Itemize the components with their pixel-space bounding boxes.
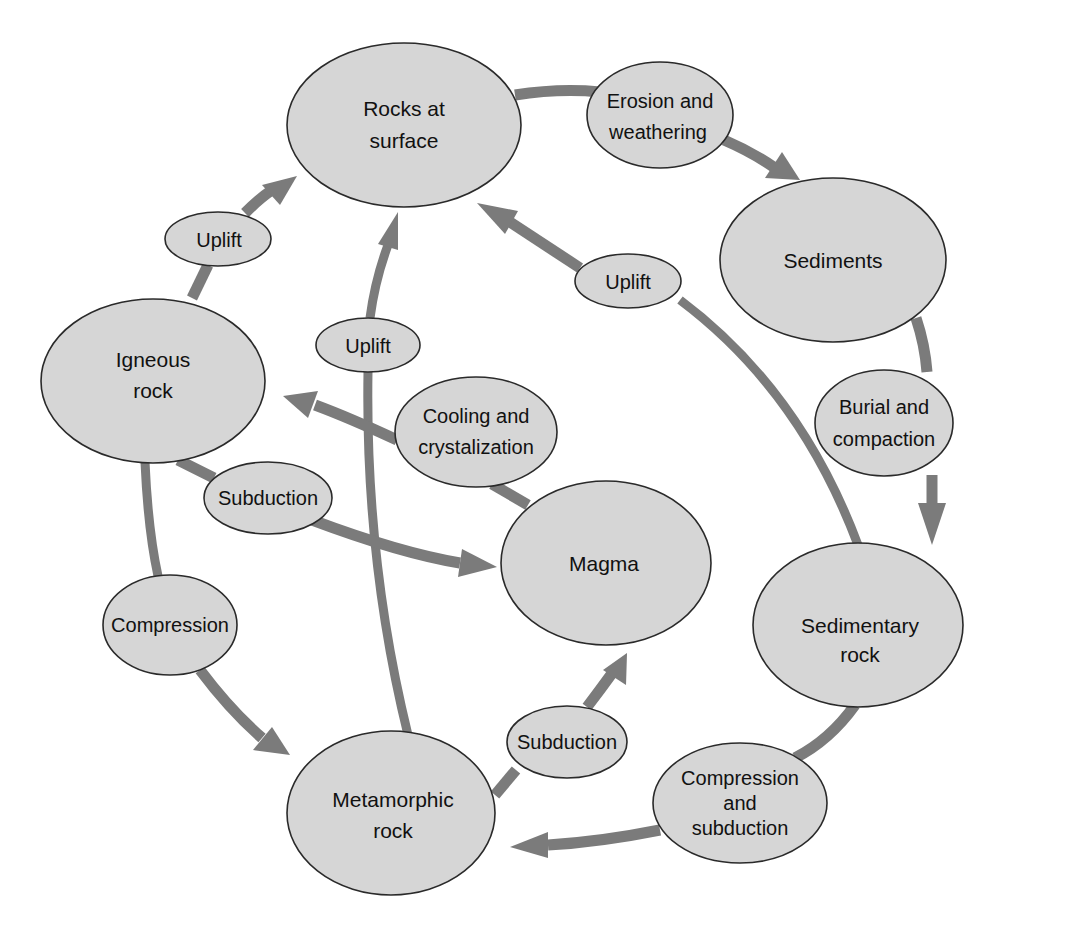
process-label: subduction (692, 817, 789, 839)
process-label: Uplift (196, 229, 242, 251)
node-metamorphic-rock: Metamorphic rock (287, 731, 495, 895)
arrow-head (510, 832, 548, 858)
arrow-sedimentary-to-compsub (795, 705, 855, 758)
process-uplift-center: Uplift (316, 318, 420, 372)
node-label: Magma (569, 552, 639, 575)
process-label: and (723, 792, 756, 814)
rock-cycle-diagram: Rocks at surface Sediments Sedimentary r… (0, 0, 1070, 935)
process-label: Uplift (345, 335, 391, 357)
process-uplift-right: Uplift (575, 254, 681, 308)
node-sediments: Sediments (720, 178, 946, 342)
process-label: crystalization (418, 436, 534, 458)
process-compression-and-subduction: Compression and subduction (653, 743, 827, 863)
arrow-metamorphic-to-subduction (495, 770, 516, 795)
process-subduction-left: Subduction (204, 462, 332, 534)
arrow-head (283, 391, 318, 418)
process-label: Subduction (517, 731, 617, 753)
arrow-surface-to-erosion (515, 91, 600, 95)
arrow-subduction-to-magma (587, 672, 613, 707)
arrow-erosion-to-sediments (724, 140, 775, 168)
process-label: Erosion and (607, 90, 714, 112)
arrow-igneous-to-compression (145, 462, 158, 576)
arrow-head (262, 176, 297, 205)
arrow-head (918, 503, 946, 545)
arrow-head (458, 549, 497, 577)
arrow-cooling-to-igneous (315, 405, 397, 440)
process-erosion-and-weathering: Erosion and weathering (587, 62, 733, 168)
node-label: Sedimentary (801, 614, 919, 637)
node-label: Sediments (783, 249, 882, 272)
node-label: rock (373, 819, 413, 842)
arrow-uplift-left-to-surface (245, 190, 272, 213)
arrow-sediments-to-burial (916, 318, 927, 372)
node-igneous-rock: Igneous rock (41, 299, 265, 463)
arrow-head (378, 212, 398, 250)
process-cooling-and-crystalization: Cooling and crystalization (395, 377, 557, 487)
arrow-magma-to-cooling (492, 484, 528, 505)
node-label: surface (370, 129, 439, 152)
node-rocks-at-surface: Rocks at surface (287, 43, 521, 207)
process-label: Uplift (605, 271, 651, 293)
arrow-uplift-right-to-surface (510, 222, 580, 268)
arrow-subduction-to-magma-left (312, 520, 460, 563)
process-compression: Compression (103, 575, 237, 675)
node-magma: Magma (501, 481, 711, 645)
arrow-uplift-center-to-surface (370, 245, 388, 318)
process-subduction-bottom: Subduction (507, 706, 627, 778)
node-label: Rocks at (363, 97, 445, 120)
node-label: Igneous (116, 348, 191, 371)
arrow-igneous-to-uplift-left (192, 265, 208, 298)
process-label: Burial and (839, 396, 929, 418)
node-label: rock (840, 643, 880, 666)
process-label: Cooling and (423, 405, 530, 427)
node-label: Metamorphic (332, 788, 453, 811)
node-sedimentary-rock: Sedimentary rock (753, 543, 963, 707)
arrow-compsub-to-metamorphic (548, 830, 660, 845)
process-label: Compression (681, 767, 799, 789)
process-label: Compression (111, 614, 229, 636)
arrow-compression-to-metamorphic (200, 670, 262, 738)
process-uplift-left: Uplift (165, 212, 271, 266)
node-label: rock (133, 379, 173, 402)
process-burial-and-compaction: Burial and compaction (815, 370, 953, 476)
arrow-igneous-to-subduction (178, 460, 214, 478)
process-label: weathering (608, 121, 707, 143)
process-label: Subduction (218, 487, 318, 509)
process-label: compaction (833, 428, 935, 450)
